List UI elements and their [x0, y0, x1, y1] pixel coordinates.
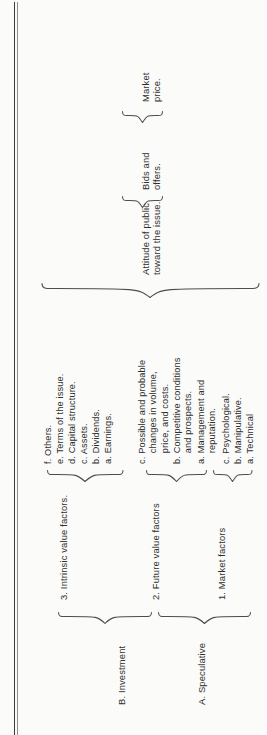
level2-label-bids: Bids and offers.	[140, 152, 163, 190]
brace-category-1	[212, 469, 254, 485]
item-2a: a. Management and reputation.	[196, 380, 219, 464]
item-1b: b. Manipulative.	[233, 397, 244, 464]
level2-label-attitude: Attitude of public toward the issue.	[140, 202, 163, 275]
item-3f: f. Others.	[43, 425, 54, 464]
item-2c: c. Possible and probable changes in volu…	[137, 360, 171, 464]
brace-category-2	[145, 469, 209, 485]
item-3a: a. Earnings.	[103, 413, 114, 464]
item-3d: d. Capital structure.	[67, 381, 78, 464]
diagram-canvas: A. Speculative B. Investment 1. Market f…	[0, 0, 267, 735]
brace-market-price	[121, 110, 165, 126]
brace-group-A	[157, 611, 252, 627]
item-1c: c. Psychological.	[221, 393, 232, 464]
page-edge-rule	[14, 2, 15, 735]
group-label-A: A. Speculative	[196, 643, 207, 705]
root-label-market-price: Market price.	[140, 72, 163, 102]
brace-category-3	[46, 469, 126, 485]
brace-group-B	[57, 611, 153, 627]
item-2b: b. Competitive conditions and prospects.	[172, 358, 195, 464]
item-3e: e. Terms of the issue.	[55, 374, 66, 464]
brace-bids-and-offers	[121, 195, 165, 211]
item-3b: b. Dividends.	[91, 409, 102, 464]
category-label-3: 3. Intrinsic value factors.	[58, 495, 69, 600]
item-1a: a. Technical	[245, 414, 256, 464]
brace-attitude-of-public	[40, 281, 262, 301]
category-label-2: 2. Future value factors	[150, 503, 161, 600]
group-label-B: B. Investment	[116, 646, 127, 705]
item-3c: c. Assets.	[79, 423, 90, 464]
category-label-1: 1. Market factors	[216, 528, 227, 600]
page-edge-rule-shadow	[17, 2, 18, 735]
